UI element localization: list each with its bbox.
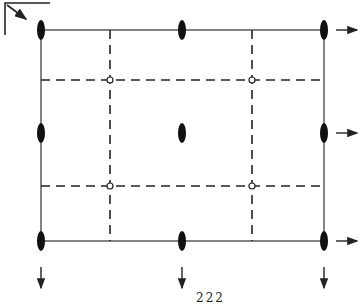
twofold-axis-icon [37,123,45,143]
inversion-center-icon [249,183,255,189]
twofold-axis-icon [178,123,186,143]
twofold-axis-icon [37,231,45,251]
caption-label: 222 [196,291,225,304]
twofold-axis-icon [320,20,328,40]
twofold-axis-icon [320,123,328,143]
inversion-center-icon [107,183,113,189]
inversion-center-icon [249,77,255,83]
twofold-axis-icon [178,20,186,40]
direction-arrows [41,30,357,288]
twofold-axis-icon [178,231,186,251]
twofold-axis-icon [37,20,45,40]
twofold-axes [37,20,328,251]
inversion-center-icon [107,77,113,83]
symmetry-diagram [0,0,362,304]
twofold-axis-icon [320,231,328,251]
